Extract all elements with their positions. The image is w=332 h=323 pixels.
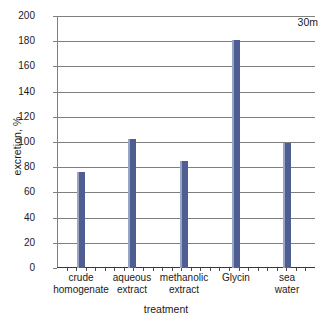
x-axis-tick-mark (200, 268, 201, 271)
x-axis-tick-mark (191, 268, 192, 271)
x-axis-tick-mark (86, 268, 87, 271)
x-axis-tick-mark (162, 268, 163, 271)
bar (283, 143, 291, 268)
x-axis-tick-mark (114, 268, 115, 271)
x-axis-tick-mark (143, 268, 144, 271)
x-axis-tick-mark (172, 268, 173, 271)
category-label-line: sea (249, 272, 325, 284)
y-axis-tick-mark (53, 41, 57, 42)
x-axis-tick-mark (286, 268, 287, 271)
x-axis-tick-mark (248, 268, 249, 271)
x-axis-tick-mark (219, 268, 220, 271)
gridline (57, 142, 315, 143)
y-axis-tick-label: 20 (0, 238, 35, 248)
bar (180, 161, 188, 268)
x-axis-tick-mark (267, 268, 268, 271)
gridline (57, 92, 315, 93)
bar (77, 172, 85, 268)
y-axis-tick-label: 140 (0, 87, 35, 97)
y-axis-tick-mark (53, 66, 57, 67)
y-axis-tick-mark (53, 92, 57, 93)
y-axis-tick-mark (53, 243, 57, 244)
category-label-line: extract (146, 284, 222, 296)
y-axis-tick-label: 40 (0, 213, 35, 223)
category-label-line: water (249, 284, 325, 296)
gridline (57, 117, 315, 118)
bar (232, 40, 240, 268)
x-axis-tick-mark (153, 268, 154, 271)
x-axis-tick-mark (133, 268, 134, 271)
y-axis-tick-label: 120 (0, 112, 35, 122)
y-axis-tick-label: 100 (0, 137, 35, 147)
bar (128, 139, 136, 268)
x-axis-tick-mark (305, 268, 306, 271)
y-axis-tick-label: 0 (0, 263, 35, 273)
y-axis-tick-mark (53, 142, 57, 143)
y-axis-tick-label: 180 (0, 36, 35, 46)
x-axis-tick-mark (105, 268, 106, 271)
y-axis-tick-mark (53, 192, 57, 193)
gridline (57, 66, 315, 67)
x-axis-tick-mark (181, 268, 182, 271)
plot-area: 020406080100120140160180200 (57, 16, 315, 268)
x-axis-tick-mark (124, 268, 125, 271)
y-axis-tick-mark (53, 268, 57, 269)
y-axis-tick-label: 160 (0, 61, 35, 71)
x-axis-tick-mark (67, 268, 68, 271)
y-axis-tick-mark (53, 16, 57, 17)
x-axis-tick-mark (296, 268, 297, 271)
y-axis-tick-label: 80 (0, 162, 35, 172)
x-axis-tick-mark (95, 268, 96, 271)
x-axis-tick-mark (239, 268, 240, 271)
y-axis-tick-label: 60 (0, 187, 35, 197)
x-axis-tick-mark (76, 268, 77, 271)
x-axis-category-label: seawater (249, 272, 325, 295)
y-axis-tick-mark (53, 218, 57, 219)
x-axis-tick-mark (258, 268, 259, 271)
bar-chart-figure: excretion, % 30m 02040608010012014016018… (0, 0, 332, 323)
y-axis-tick-mark (53, 167, 57, 168)
gridline (57, 16, 315, 17)
y-axis-tick-label: 200 (0, 11, 35, 21)
x-axis-tick-mark (229, 268, 230, 271)
x-axis-tick-mark (277, 268, 278, 271)
x-axis-title: treatment (0, 303, 332, 315)
x-axis-tick-mark (210, 268, 211, 271)
y-axis-tick-mark (53, 117, 57, 118)
gridline (57, 41, 315, 42)
